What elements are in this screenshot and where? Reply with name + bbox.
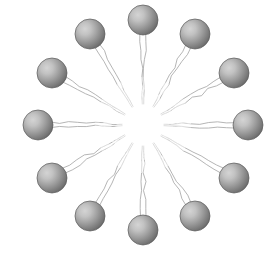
sphere-node-6-00	[128, 215, 158, 245]
sphere-node-9-00	[23, 110, 53, 140]
sphere-node-10-00	[37, 58, 67, 88]
sphere-node-5-00	[180, 201, 210, 231]
figure-canvas	[0, 0, 280, 253]
sphere-node-3-00	[233, 110, 263, 140]
sphere-node-8-00	[37, 163, 67, 193]
sphere-node-4-00	[219, 163, 249, 193]
sphere-node-2-00	[219, 58, 249, 88]
spoke-fade-mask	[141, 146, 142, 172]
sphere-node-1-00	[180, 19, 210, 49]
radial-sphere-diagram	[0, 0, 280, 253]
sphere-node-7-00	[75, 201, 105, 231]
sphere-node-12-00	[128, 5, 158, 35]
center-hub	[125, 107, 160, 142]
spoke-fade-mask	[164, 123, 190, 125]
sphere-node-11-00	[75, 19, 105, 49]
spoke-fade-mask	[96, 123, 122, 125]
